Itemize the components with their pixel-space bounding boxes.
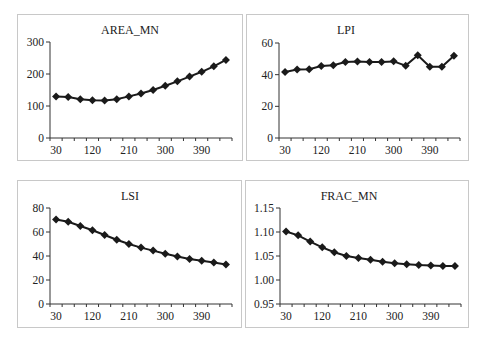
data-point-marker (378, 58, 386, 66)
x-tick-label: 390 (421, 144, 439, 156)
data-point-marker (101, 231, 109, 239)
data-point-marker (366, 58, 374, 66)
data-point-marker (342, 252, 350, 260)
data-point-marker (161, 82, 169, 90)
data-point-marker (439, 262, 447, 270)
x-tick-label: 390 (422, 310, 440, 322)
x-tick-label: 120 (84, 144, 102, 156)
data-point-marker (354, 254, 362, 262)
data-point-marker (403, 260, 411, 268)
data-point-marker (198, 257, 206, 265)
y-tick-label: 100 (27, 100, 45, 112)
data-point-marker (125, 240, 133, 248)
data-point-marker (222, 260, 230, 268)
x-tick-label: 300 (385, 144, 403, 156)
data-point-marker (113, 95, 121, 103)
y-tick-label: 1.05 (254, 250, 274, 262)
x-tick-label: 30 (280, 310, 292, 322)
data-point-marker (294, 231, 302, 239)
data-point-marker (330, 248, 338, 256)
data-point-marker (318, 243, 326, 251)
y-tick-label: 20 (33, 274, 45, 286)
y-tick-label: 60 (262, 37, 274, 49)
y-tick-label: 20 (262, 100, 274, 112)
data-point-marker (52, 92, 60, 100)
data-point-marker (198, 68, 206, 76)
x-tick-label: 120 (313, 144, 331, 156)
y-tick-label: 1.00 (254, 274, 274, 286)
y-tick-label: 300 (27, 36, 45, 48)
data-point-marker (173, 77, 181, 85)
x-tick-label: 30 (50, 310, 62, 322)
data-point-marker (305, 65, 313, 73)
data-point-marker (282, 228, 290, 236)
data-point-marker (186, 73, 194, 81)
data-point-marker (76, 95, 84, 103)
y-tick-label: 0 (38, 132, 44, 144)
data-point-marker (222, 56, 230, 64)
x-tick-label: 120 (314, 310, 332, 322)
data-point-marker (317, 62, 325, 70)
data-point-marker (341, 58, 349, 66)
data-point-marker (88, 96, 96, 104)
data-point-marker (210, 259, 218, 267)
data-point-marker (186, 255, 194, 263)
x-tick-label: 390 (193, 144, 211, 156)
data-point-marker (390, 57, 398, 65)
x-tick-label: 300 (157, 144, 175, 156)
data-point-marker (306, 238, 314, 246)
x-tick-label: 300 (157, 310, 175, 322)
data-point-marker (149, 86, 157, 94)
data-point-marker (427, 262, 435, 270)
y-tick-label: 1.10 (254, 226, 274, 238)
data-point-marker (329, 61, 337, 69)
chart-title-area-mn: AREA_MN (101, 23, 159, 37)
data-point-marker (52, 215, 60, 223)
data-point-marker (210, 62, 218, 70)
x-tick-label: 210 (349, 144, 367, 156)
chart-title-frac-mn: FRAC_MN (321, 189, 378, 203)
x-tick-label: 120 (84, 310, 102, 322)
data-point-marker (415, 261, 423, 269)
y-tick-label: 40 (262, 69, 274, 81)
y-tick-label: 0 (38, 298, 44, 310)
data-point-marker (88, 226, 96, 234)
y-tick-label: 0 (267, 132, 273, 144)
chart-title-lsi: LSI (121, 189, 139, 203)
chart-title-lpi: LPI (337, 23, 355, 37)
data-point-marker (64, 218, 72, 226)
data-point-marker (113, 236, 121, 244)
x-tick-label: 210 (120, 144, 138, 156)
data-point-marker (101, 97, 109, 105)
data-point-marker (76, 222, 84, 230)
y-tick-label: 60 (33, 226, 45, 238)
data-point-marker (64, 93, 72, 101)
y-tick-label: 40 (33, 250, 45, 262)
data-point-marker (137, 244, 145, 252)
x-tick-label: 210 (120, 310, 138, 322)
data-point-marker (161, 250, 169, 258)
data-point-marker (293, 66, 301, 74)
x-tick-label: 30 (279, 144, 291, 156)
data-point-marker (125, 92, 133, 100)
x-tick-label: 210 (350, 310, 368, 322)
y-tick-label: 80 (33, 202, 45, 214)
data-point-marker (137, 90, 145, 98)
data-point-marker (149, 247, 157, 255)
data-point-marker (367, 256, 375, 264)
y-tick-label: 1.15 (254, 202, 274, 214)
data-point-marker (379, 258, 387, 266)
data-point-marker (353, 58, 361, 66)
data-point-marker (173, 252, 181, 260)
x-tick-label: 300 (386, 310, 404, 322)
y-tick-label: 200 (27, 68, 45, 80)
charts-canvas: AREA_MN010020030030120210300390LPI020406… (0, 0, 485, 344)
y-tick-label: 0.95 (254, 298, 274, 310)
data-point-marker (391, 259, 399, 267)
x-tick-label: 390 (193, 310, 211, 322)
data-point-marker (281, 68, 289, 76)
x-tick-label: 30 (50, 144, 62, 156)
data-point-marker (451, 262, 459, 270)
